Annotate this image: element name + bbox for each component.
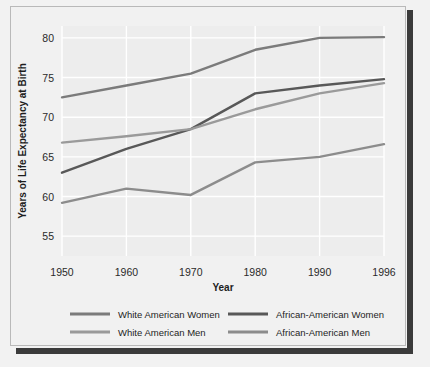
line-chart: 556065707580 195019601970198019901996 Ye… xyxy=(10,6,406,346)
x-tick-label-1970: 1970 xyxy=(179,266,203,278)
x-tick-label-1990: 1990 xyxy=(308,266,332,278)
y-axis-tick-labels: 556065707580 xyxy=(42,32,54,242)
chart-plot-wrapper: 556065707580 195019601970198019901996 Ye… xyxy=(10,6,406,346)
legend-label-african-american-men: African-American Men xyxy=(276,327,370,338)
y-tick-label-65: 65 xyxy=(42,151,54,163)
x-axis-tick-labels: 195019601970198019901996 xyxy=(50,266,396,278)
x-tick-label-1950: 1950 xyxy=(50,266,74,278)
legend-label-african-american-women: African-American Women xyxy=(276,309,384,320)
frame-shadow-right xyxy=(407,10,413,354)
y-tick-label-70: 70 xyxy=(42,111,54,123)
frame-shadow-bottom xyxy=(16,348,413,354)
legend-label-white-american-men: White American Men xyxy=(118,327,206,338)
figure-container: 556065707580 195019601970198019901996 Ye… xyxy=(0,0,430,367)
chart-legend: White American WomenAfrican-American Wom… xyxy=(70,309,384,338)
y-tick-label-55: 55 xyxy=(42,230,54,242)
x-axis-title: Year xyxy=(212,282,233,293)
legend-label-white-american-women: White American Women xyxy=(118,309,220,320)
y-tick-label-75: 75 xyxy=(42,72,54,84)
y-axis-title: Years of Life Expectancy at Birth xyxy=(17,63,28,219)
x-tick-label-1980: 1980 xyxy=(244,266,268,278)
x-tick-label-1960: 1960 xyxy=(115,266,139,278)
x-tick-label-1996: 1996 xyxy=(372,266,396,278)
y-tick-label-80: 80 xyxy=(42,32,54,44)
y-tick-label-60: 60 xyxy=(42,191,54,203)
